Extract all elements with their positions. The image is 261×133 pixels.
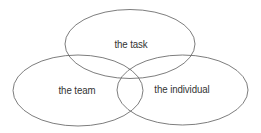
venn-diagram [0,0,261,133]
team-label: the team [59,84,96,96]
individual-label: the individual [154,83,209,95]
task-label: the task [114,38,147,50]
